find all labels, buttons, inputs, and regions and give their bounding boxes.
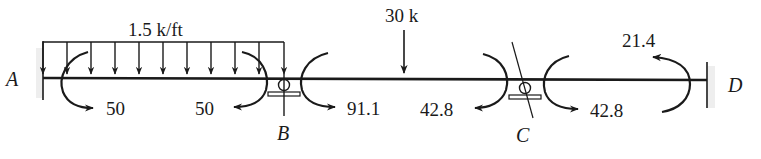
moment-label: 50 xyxy=(195,98,214,119)
distributed-load: 1.5 k/ft xyxy=(43,19,284,74)
node-label-a: A xyxy=(4,68,19,90)
moment-label: 42.8 xyxy=(590,100,623,121)
node-label-b: B xyxy=(277,122,289,144)
node-c: C xyxy=(509,42,541,146)
moment-b-left: 50 xyxy=(195,52,267,119)
beam-line xyxy=(43,78,707,80)
node-b: B xyxy=(268,74,300,144)
moment-label: 21.4 xyxy=(622,30,656,51)
moment-label: 42.8 xyxy=(420,99,453,120)
beam-diagram: A 1.5 k/ft 50 50 B 91.1 xyxy=(0,0,761,159)
moment-c-left: 42.8 xyxy=(420,54,507,120)
fixed-wall-hatch xyxy=(708,66,715,108)
node-label-d: D xyxy=(727,74,743,96)
moment-d-left: 21.4 xyxy=(622,30,690,112)
node-label-c: C xyxy=(516,124,530,146)
moment-label: 50 xyxy=(106,98,125,119)
fixed-wall-hatch xyxy=(36,48,43,98)
moment-c-right: 42.8 xyxy=(544,56,623,121)
node-d: D xyxy=(707,62,743,108)
node-a: A xyxy=(4,41,43,100)
moment-arrow-icon xyxy=(544,56,578,109)
moment-arrow-icon xyxy=(653,57,690,112)
moment-arrow-icon xyxy=(475,54,507,108)
point-load-label: 30 k xyxy=(385,5,419,26)
roller-base-plate xyxy=(509,95,541,99)
moment-label: 91.1 xyxy=(347,98,380,119)
distributed-load-label: 1.5 k/ft xyxy=(128,19,184,40)
moment-arrow-icon xyxy=(62,52,93,108)
point-load: 30 k xyxy=(385,5,419,73)
moment-b-right: 91.1 xyxy=(301,53,380,119)
